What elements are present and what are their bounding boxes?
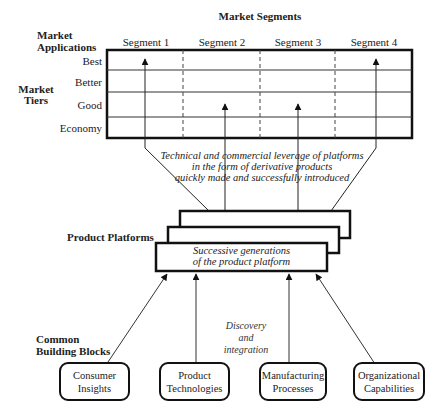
tier-label-good: Good <box>50 99 102 112</box>
platform-line-1: Successive generations <box>156 245 327 256</box>
tier-label-best: Best <box>50 55 102 68</box>
block-manufacturing-processes: ManufacturingProcesses <box>259 362 327 401</box>
product-platforms-label: Product Platforms <box>67 231 154 244</box>
block-label-line-1: Consumer <box>73 369 116 382</box>
discovery-line-3: integration <box>216 344 276 356</box>
block-label-line-2: Processes <box>262 382 324 395</box>
block-label-line-1: Manufacturing <box>262 369 324 382</box>
block-product-technologies: ProductTechnologies <box>159 362 230 401</box>
discovery-line-1: Discovery <box>216 320 276 332</box>
common-building-blocks-label: Common Building Blocks <box>36 333 110 357</box>
leverage-line-2: in the form of derivative products <box>150 161 374 172</box>
block-label-line-2: Insights <box>73 382 116 395</box>
block-consumer-insights: ConsumerInsights <box>59 362 130 401</box>
discovery-integration-text: Discovery and integration <box>216 320 276 356</box>
leverage-line-1: Technical and commercial leverage of pla… <box>150 150 374 161</box>
market-segments-title: Market Segments <box>205 10 315 23</box>
block-label-line-2: Technologies <box>167 382 223 395</box>
discovery-line-2: and <box>216 332 276 344</box>
building-blocks-label-line-2: Building Blocks <box>36 345 110 357</box>
platform-line-2: of the product platform <box>156 256 327 267</box>
tier-label-better: Better <box>50 76 102 89</box>
block-organizational-capabilities: OrganizationalCapabilities <box>353 362 425 401</box>
segment-header-2: Segment 2 <box>185 36 259 49</box>
block-label-line-1: Organizational <box>358 369 420 382</box>
tier-label-economy: Economy <box>50 122 102 135</box>
building-blocks-label-line-1: Common <box>36 333 110 345</box>
segment-header-4: Segment 4 <box>337 36 411 49</box>
block-label-line-2: Capabilities <box>358 382 420 395</box>
leverage-description: Technical and commercial leverage of pla… <box>150 150 374 183</box>
platform-description: Successive generations of the product pl… <box>156 245 327 267</box>
market-grid <box>107 50 412 138</box>
market-applications-label: Market Applications <box>37 29 107 53</box>
leverage-line-3: quickly made and successfully introduced <box>150 172 374 183</box>
segment-header-3: Segment 3 <box>261 36 335 49</box>
block-label-line-1: Product <box>167 369 223 382</box>
segment-header-1: Segment 1 <box>110 36 182 49</box>
